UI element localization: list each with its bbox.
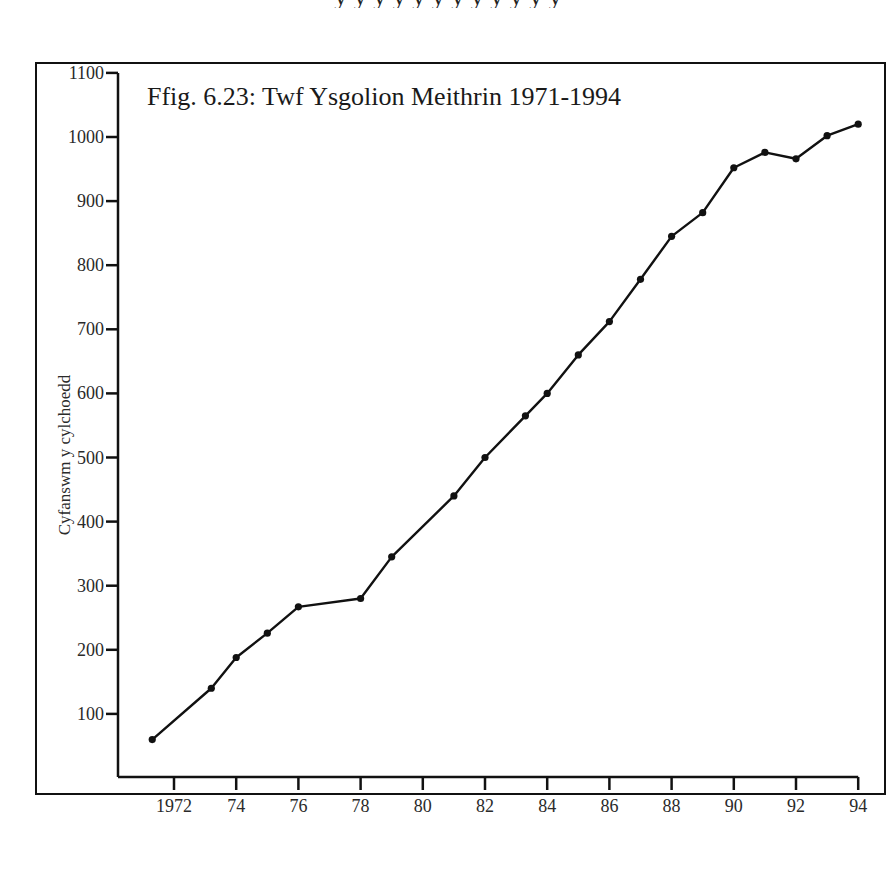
x-tick-label: 90	[725, 796, 743, 816]
y-axis-label: Cyfanswm y cylchoedd	[55, 374, 74, 535]
data-point-marker	[295, 603, 302, 610]
x-tick-label: 84	[538, 796, 556, 816]
y-axis-ticks: 10020030040050060070080090010001100	[68, 63, 118, 724]
y-tick-label: 1000	[68, 127, 104, 147]
data-point-marker	[668, 233, 675, 240]
y-tick-label: 200	[77, 640, 104, 660]
axes	[118, 73, 858, 777]
x-tick-label: 74	[227, 796, 245, 816]
series-line	[152, 124, 858, 739]
x-tick-label: 1972	[156, 796, 192, 816]
y-tick-label: 700	[77, 319, 104, 339]
x-tick-label: 78	[352, 796, 370, 816]
x-tick-label: 88	[663, 796, 681, 816]
x-tick-label: 92	[787, 796, 805, 816]
line-chart: Ffig. 6.23: Twf Ysgolion Meithrin 1971-1…	[0, 0, 896, 870]
data-point-marker	[824, 132, 831, 139]
y-tick-label: 900	[77, 191, 104, 211]
y-tick-label: 800	[77, 255, 104, 275]
x-tick-label: 80	[414, 796, 432, 816]
chart-title: Ffig. 6.23: Twf Ysgolion Meithrin 1971-1…	[147, 82, 621, 111]
x-tick-label: 76	[289, 796, 307, 816]
data-point-marker	[233, 654, 240, 661]
x-tick-label: 82	[476, 796, 494, 816]
data-point-marker	[761, 149, 768, 156]
data-point-marker	[575, 351, 582, 358]
data-point-marker	[149, 736, 156, 743]
data-point-marker	[264, 630, 271, 637]
y-tick-label: 400	[77, 512, 104, 532]
y-tick-label: 100	[77, 704, 104, 724]
y-tick-label: 1100	[69, 63, 104, 83]
data-point-marker	[699, 209, 706, 216]
data-point-marker	[208, 685, 215, 692]
y-tick-label: 300	[77, 576, 104, 596]
data-point-marker	[606, 318, 613, 325]
x-axis-ticks: 19727476788082848688909294	[156, 777, 867, 816]
data-point-marker	[481, 454, 488, 461]
data-point-marker	[388, 553, 395, 560]
data-point-marker	[450, 492, 457, 499]
data-point-marker	[522, 412, 529, 419]
data-point-marker	[357, 595, 364, 602]
data-point-marker	[855, 121, 862, 128]
y-tick-label: 500	[77, 448, 104, 468]
y-tick-label: 600	[77, 383, 104, 403]
data-point-marker	[544, 390, 551, 397]
x-tick-label: 94	[849, 796, 867, 816]
data-point-marker	[792, 155, 799, 162]
data-point-marker	[637, 276, 644, 283]
data-series	[149, 121, 862, 744]
data-point-marker	[730, 164, 737, 171]
x-tick-label: 86	[600, 796, 618, 816]
